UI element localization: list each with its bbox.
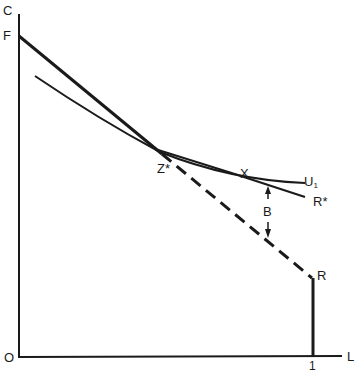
point-Z-star-label: Z*	[157, 162, 170, 175]
x-axis-label: L	[347, 350, 354, 363]
point-R-label: R	[317, 269, 326, 282]
curve-U1-main: U	[304, 174, 313, 189]
gap-B-label: B	[263, 205, 272, 218]
point-F-label: F	[3, 29, 11, 42]
curve-U1-subscript: 1	[313, 181, 317, 190]
x-axis	[18, 356, 342, 357]
origin-label: O	[4, 351, 14, 364]
curve-R-star	[155, 149, 305, 197]
curve-U1-label: U1	[304, 175, 318, 190]
curve-R-star-label: R*	[313, 195, 327, 208]
y-axis-label: C	[3, 4, 12, 17]
budget-line-solid	[19, 36, 162, 154]
arrow-up-icon	[265, 186, 271, 194]
arrow-down-icon	[265, 229, 271, 238]
indifference-curve-U1	[35, 76, 305, 183]
budget-line-dashed	[162, 154, 312, 278]
point-X-label: X	[240, 167, 249, 180]
x-tick-1-label: 1	[309, 360, 316, 372]
